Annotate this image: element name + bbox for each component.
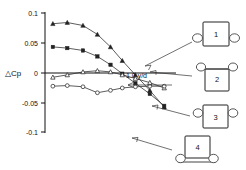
data-point [65,84,69,88]
legend-wheel-left-2 [196,63,205,71]
y-tick-label-3: -0.05 [22,100,38,107]
legend-label-4: 4 [195,143,199,152]
data-point [81,70,85,74]
leader-lines [132,42,192,150]
data-point [51,75,55,79]
legend-wheel-right-2 [228,63,237,71]
data-point [81,85,85,89]
data-point [134,82,137,85]
y-tick-label-4: -0.1 [26,129,38,136]
data-point [95,69,99,73]
legend-wheel-left-1 [193,34,203,42]
data-point [148,92,151,95]
data-point [120,86,124,90]
leader-arrowhead-4 [132,137,138,142]
legend-wheel-right-3 [228,109,238,117]
data-point [109,88,113,92]
legend-item-2[interactable]: 2 [196,63,237,91]
legend-wheel-left-3 [193,109,203,117]
data-point [109,63,112,66]
data-point [108,70,112,74]
data-point [96,55,99,58]
data-point [81,49,84,52]
legend-item-4[interactable]: 4 [176,136,219,163]
data-point [133,85,137,89]
y-tick-label-1: 0.05 [24,40,38,47]
scale-bar: 1.0 y/d [126,72,172,87]
legend-label-3: 3 [213,113,217,122]
data-point [148,80,152,84]
chart-figure: 0.1 0.05 0 -0.05 -0.1 △Cp 1.0 y/d [0,0,246,170]
leader-arrowhead-1 [145,65,151,70]
leader-to-legend-1 [145,42,192,66]
leader-to-legend-4 [132,138,172,150]
y-tick-label-2: 0 [34,70,38,77]
data-point [66,46,69,49]
data-point [51,84,55,88]
scale-bar-label: 1.0 y/d [126,72,147,80]
y-axis-title: △Cp [5,69,22,78]
legend-wheel-right-1 [230,34,240,42]
legend-label-1: 1 [214,30,218,39]
y-axis [41,12,45,133]
data-point [51,45,54,48]
legend-wheel-left-4 [176,154,186,162]
data-point [96,91,100,95]
y-tick-label-0: 0.1 [28,10,38,17]
legend-item-3[interactable]: 3 [193,105,238,128]
data-point [95,32,99,36]
legend-label-2: 2 [215,75,219,84]
data-point [163,104,166,107]
legend-wheel-right-4 [209,154,219,162]
data-series-layer [51,20,167,109]
chart-canvas: 0.1 0.05 0 -0.05 -0.1 △Cp 1.0 y/d [0,0,246,170]
legend-item-1[interactable]: 1 [193,22,240,46]
